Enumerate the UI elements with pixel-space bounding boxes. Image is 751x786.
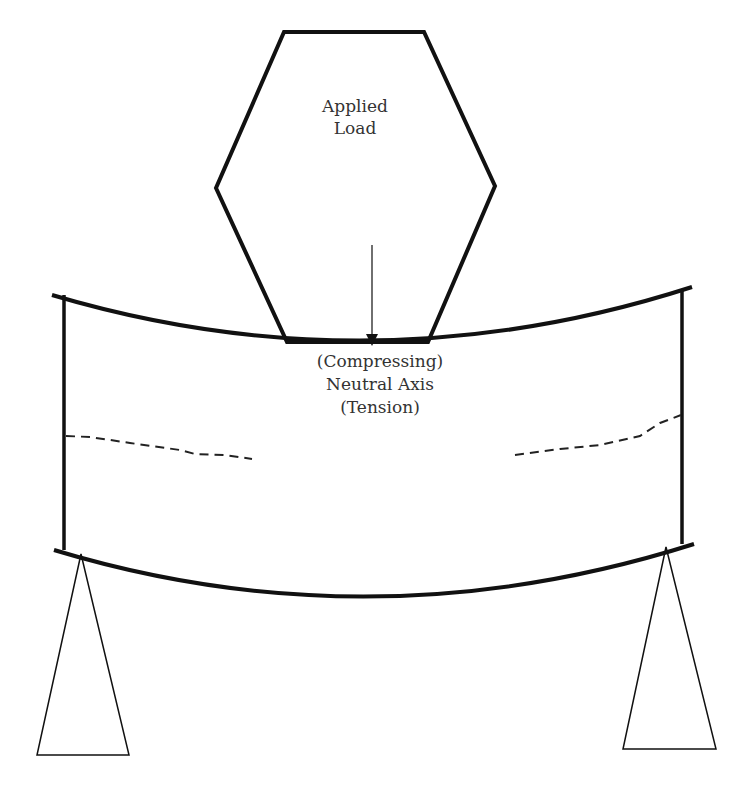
beam-bending-diagram: Applied Load (Compressing) Neutral Axis … [0, 0, 751, 786]
neutral-axis-label: Neutral Axis [280, 373, 480, 396]
applied-load-line2: Load [300, 117, 410, 139]
applied-load-label: Applied Load [300, 95, 410, 139]
tension-label: (Tension) [280, 396, 480, 419]
beam-bottom-edge [54, 544, 694, 597]
neutral-axis-right-dashed [515, 415, 681, 455]
applied-load-hexagon [216, 32, 495, 342]
right-support-triangle [623, 547, 716, 749]
compressing-label: (Compressing) [280, 350, 480, 373]
neutral-axis-label-group: (Compressing) Neutral Axis (Tension) [280, 350, 480, 419]
left-support-triangle [37, 554, 129, 755]
applied-load-line1: Applied [300, 95, 410, 117]
neutral-axis-left-dashed [66, 436, 252, 459]
